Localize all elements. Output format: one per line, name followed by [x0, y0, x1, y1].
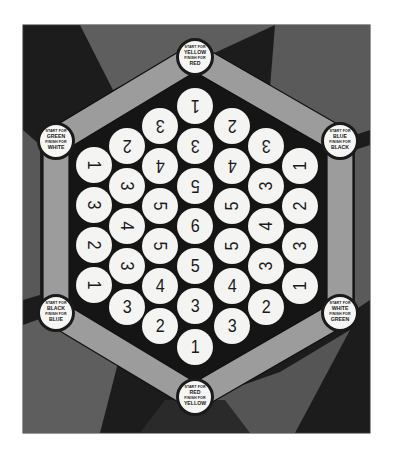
cell-value: 1 [289, 282, 311, 291]
board-cell[interactable]: 3 [214, 308, 250, 344]
start-color: BLUE [333, 134, 347, 139]
start-color: RED [190, 390, 201, 395]
cell-value: 2 [227, 115, 236, 137]
start-finish-node-top-left[interactable]: START FORGREENFINISH FORWHITE [37, 122, 75, 160]
cell-value: 2 [83, 241, 105, 250]
board-cell[interactable]: 3 [248, 248, 284, 284]
cell-value: 3 [83, 201, 105, 210]
board-cell[interactable]: 3 [177, 288, 213, 324]
cell-value: 3 [190, 295, 199, 317]
start-color: GREEN [47, 134, 65, 139]
cell-value: 1 [83, 161, 105, 170]
start-finish-node-bottom[interactable]: START FORREDFINISH FORYELLOW [176, 378, 214, 416]
region-left [23, 130, 40, 300]
board-cell[interactable]: 3 [109, 168, 145, 204]
board-cell[interactable]: 3 [282, 228, 318, 264]
cell-value: 5 [190, 175, 199, 197]
board-cell[interactable]: 2 [76, 227, 112, 263]
board-cell[interactable]: 3 [248, 168, 284, 204]
cell-value: 3 [255, 262, 277, 271]
board-cell[interactable]: 3 [142, 108, 178, 144]
cell-value: 3 [190, 135, 199, 157]
start-finish-node-top-right[interactable]: START FORBLUEFINISH FORBLACK [321, 122, 359, 160]
board-cell[interactable]: 1 [177, 88, 213, 124]
cell-value: 1 [83, 281, 105, 290]
board-cell[interactable]: 5 [214, 188, 250, 224]
board-cell[interactable]: 3 [109, 289, 145, 325]
board-cell[interactable]: 3 [177, 128, 213, 164]
board-cell[interactable]: 5 [214, 228, 250, 264]
cell-value: 2 [261, 296, 270, 318]
cell-value: 4 [255, 222, 277, 231]
cell-value: 3 [122, 296, 131, 318]
cell-value: 2 [122, 135, 131, 157]
board-cell[interactable]: 2 [282, 188, 318, 224]
board-cell[interactable]: 5 [142, 188, 178, 224]
board-cell[interactable]: 5 [177, 168, 213, 204]
board-cell[interactable]: 5 [142, 228, 178, 264]
board-cell[interactable]: 3 [248, 128, 284, 164]
cell-value: 5 [190, 255, 199, 277]
cell-value: 3 [261, 135, 270, 157]
start-color: WHITE [332, 306, 349, 311]
cell-value: 3 [116, 262, 138, 271]
board-cell[interactable]: 2 [142, 308, 178, 344]
start-color: YELLOW [184, 50, 206, 55]
cell-value: 1 [190, 95, 199, 117]
finish-color: YELLOW [184, 401, 206, 406]
board-cell[interactable]: 2 [109, 128, 145, 164]
cell-value: 3 [289, 242, 311, 251]
cell-value: 4 [116, 222, 138, 231]
board-cell[interactable]: 4 [248, 208, 284, 244]
board-cell[interactable]: 5 [177, 248, 213, 284]
board-cell[interactable]: 1 [282, 148, 318, 184]
cell-value: 3 [255, 182, 277, 191]
cell-value: 3 [116, 182, 138, 191]
board-cell[interactable]: 4 [142, 148, 178, 184]
cell-value: 3 [227, 315, 236, 337]
finish-color: RED [190, 61, 201, 66]
finish-color: BLUE [49, 317, 63, 322]
board-cell[interactable]: 2 [248, 289, 284, 325]
cell-value: 2 [155, 315, 164, 337]
board-cell[interactable]: 3 [76, 187, 112, 223]
board-cell[interactable]: 1 [76, 147, 112, 183]
board-cell[interactable]: 4 [109, 208, 145, 244]
board-cell[interactable]: 4 [214, 148, 250, 184]
cell-value: 5 [149, 202, 171, 211]
start-finish-node-top[interactable]: START FORYELLOWFINISH FORRED [176, 38, 214, 76]
board-cell[interactable]: 2 [214, 108, 250, 144]
board-cell[interactable]: 1 [76, 267, 112, 303]
board-cell[interactable]: 6 [177, 208, 213, 244]
cell-value: 5 [221, 202, 243, 211]
board-cell[interactable]: 1 [282, 268, 318, 304]
cell-value: 1 [289, 162, 311, 171]
board-cell[interactable]: 1 [177, 329, 213, 365]
cell-value: 4 [227, 275, 236, 297]
cell-value: 3 [155, 115, 164, 137]
cell-value: 5 [149, 242, 171, 251]
cell-value: 6 [190, 215, 199, 237]
cell-value: 4 [155, 155, 164, 177]
start-finish-node-bottom-left[interactable]: START FORBLACKFINISH FORBLUE [37, 294, 75, 332]
board-cell[interactable]: 3 [109, 248, 145, 284]
start-color: BLACK [47, 306, 65, 311]
board-cell[interactable]: 4 [214, 268, 250, 304]
cell-value: 5 [221, 242, 243, 251]
finish-color: WHITE [48, 145, 65, 150]
cell-value: 4 [227, 155, 236, 177]
region-right [355, 145, 370, 310]
start-finish-node-bottom-right[interactable]: START FORWHITEFINISH FORGREEN [321, 294, 359, 332]
finish-color: BLACK [331, 145, 349, 150]
cell-value: 2 [289, 202, 311, 211]
finish-color: GREEN [331, 317, 349, 322]
board-cell[interactable]: 4 [142, 268, 178, 304]
cell-value: 1 [190, 336, 199, 358]
cell-value: 4 [155, 275, 164, 297]
